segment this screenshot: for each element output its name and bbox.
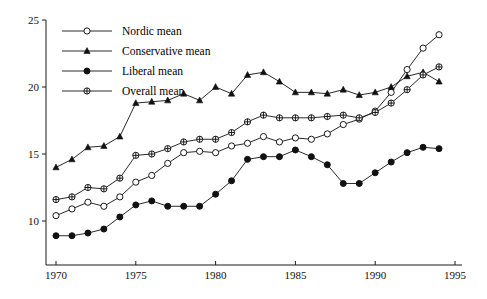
x-tick-label: 1985 (284, 269, 307, 281)
marker-filled-circle (53, 233, 59, 239)
marker-filled-circle (292, 147, 298, 153)
marker-filled-circle (101, 226, 107, 232)
marker-filled-circle (181, 203, 187, 209)
x-tick-label: 1970 (45, 269, 68, 281)
marker-open-circle (244, 140, 250, 146)
marker-filled-triangle (69, 156, 75, 162)
marker-filled-circle (69, 233, 75, 239)
x-tick-label: 1995 (444, 269, 467, 281)
marker-open-circle (133, 179, 139, 185)
marker-filled-circle (436, 146, 442, 152)
marker-open-circle (420, 45, 426, 51)
marker-filled-circle (85, 230, 91, 236)
marker-filled-circle (165, 203, 171, 209)
marker-filled-circle (324, 162, 330, 168)
x-tick-label: 1980 (205, 269, 228, 281)
marker-open-circle (404, 66, 410, 72)
x-tick-label: 1975 (125, 269, 148, 281)
marker-open-circle (149, 172, 155, 178)
marker-filled-circle (372, 170, 378, 176)
legend-item-overall-mean: Overall mean (62, 85, 185, 97)
marker-open-circle (228, 143, 234, 149)
marker-filled-circle (420, 144, 426, 150)
marker-open-circle (324, 131, 330, 137)
marker-open-circle (213, 150, 219, 156)
marker-filled-triangle (260, 69, 266, 75)
marker-filled-circle (245, 156, 251, 162)
marker-filled-circle (229, 178, 235, 184)
marker-open-circle (181, 150, 187, 156)
marker-open-circle (260, 133, 266, 139)
y-tick-label: 10 (28, 215, 40, 227)
marker-open-circle (308, 136, 314, 142)
y-axis: 10152025 (28, 14, 46, 265)
x-tick-label: 1990 (364, 269, 387, 281)
marker-filled-circle (340, 180, 346, 186)
marker-filled-circle (276, 154, 282, 160)
marker-filled-triangle (53, 164, 59, 170)
legend-item-nordic-mean: Nordic mean (62, 25, 182, 37)
legend-item-liberal-mean: Liberal mean (62, 65, 183, 77)
marker-filled-triangle (436, 78, 442, 84)
marker-filled-circle (404, 150, 410, 156)
legend-label: Nordic mean (122, 25, 182, 37)
marker-open-circle (101, 203, 107, 209)
marker-filled-circle (388, 159, 394, 165)
marker-open-circle (53, 213, 59, 219)
marker-open-circle (292, 135, 298, 141)
marker-filled-triangle (101, 143, 107, 149)
marker-open-circle (340, 121, 346, 127)
marker-filled-triangle (212, 84, 218, 90)
marker-filled-circle (260, 154, 266, 160)
marker-filled-circle (197, 203, 203, 209)
marker-open-circle (117, 194, 123, 200)
legend-label: Overall mean (122, 85, 185, 97)
marker-open-circle (388, 89, 394, 95)
marker-filled-circle (133, 202, 139, 208)
y-tick-label: 15 (28, 148, 40, 160)
x-axis: 197019751980198519901995 (45, 261, 467, 281)
marker-open-circle (84, 28, 90, 34)
legend-label: Liberal mean (122, 65, 183, 77)
marker-filled-circle (149, 198, 155, 204)
marker-filled-circle (213, 191, 219, 197)
series-overall-mean (53, 64, 442, 203)
marker-filled-triangle (117, 133, 123, 139)
series-line (56, 67, 439, 200)
marker-open-circle (197, 148, 203, 154)
y-tick-label: 20 (28, 81, 40, 93)
marker-filled-triangle (388, 84, 394, 90)
legend-label: Conservative mean (122, 45, 211, 57)
marker-filled-triangle (340, 86, 346, 92)
legend-item-conservative-mean: Conservative mean (62, 45, 211, 57)
marker-filled-circle (308, 154, 314, 160)
marker-open-circle (276, 139, 282, 145)
marker-open-circle (85, 199, 91, 205)
marker-filled-triangle (276, 78, 282, 84)
series-liberal-mean (53, 144, 442, 238)
y-tick-label: 25 (28, 14, 40, 26)
line-chart: 10152025 197019751980198519901995 Nordic… (0, 0, 487, 299)
marker-open-circle (436, 32, 442, 38)
chart-legend: Nordic meanConservative meanLiberal mean… (62, 25, 211, 97)
marker-open-circle (165, 160, 171, 166)
marker-filled-circle (356, 180, 362, 186)
series-layer (53, 32, 442, 239)
chart-canvas: 10152025 197019751980198519901995 Nordic… (0, 0, 487, 299)
marker-filled-circle (84, 68, 90, 74)
marker-filled-circle (117, 214, 123, 220)
marker-open-circle (69, 206, 75, 212)
